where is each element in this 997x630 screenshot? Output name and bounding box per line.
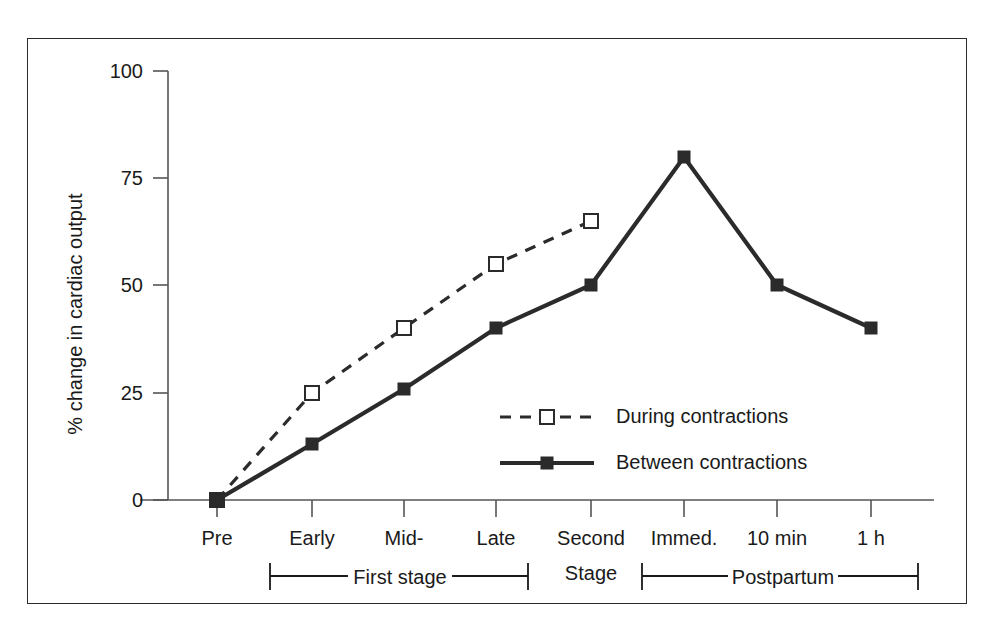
y-tick-label-25: 25 [121,382,143,404]
legend-label-during: During contractions [616,405,788,427]
data-point-during-late [489,257,503,271]
data-point-between-mid [398,383,410,395]
cardiac-output-line-chart: % change in cardiac output 100 75 50 25 … [28,39,968,605]
figure-root: % change in cardiac output 100 75 50 25 … [0,0,997,630]
y-tick-label-50: 50 [121,274,143,296]
legend-entry-during-contractions[interactable]: During contractions [500,405,788,427]
figure-frame: % change in cardiac output 100 75 50 25 … [27,38,967,604]
x-label-late: Late [477,527,516,549]
data-point-between-early [306,438,318,450]
group-label-postpartum: Postpartum [732,566,834,588]
group-bracket-postpartum: Postpartum [642,563,918,590]
series-during-contractions-line [217,221,591,500]
data-point-during-early [305,386,319,400]
data-point-between-immed [678,151,690,163]
y-tick-label-0: 0 [132,489,143,511]
legend-swatch-marker-during [540,410,554,424]
group-bracket-first-stage: First stage [270,563,528,590]
y-axis-title-text: % change in cardiac output [64,193,86,435]
group-label-first-stage: First stage [353,566,446,588]
data-point-during-mid [397,321,411,335]
x-label-mid: Mid- [385,527,424,549]
data-point-between-late [490,322,502,334]
y-axis-ticks: 100 75 50 25 0 [110,60,168,511]
y-tick-label-100: 100 [110,60,143,82]
data-point-during-second [584,214,598,228]
legend-label-between: Between contractions [616,451,807,473]
data-point-between-pre [211,494,223,506]
data-point-between-1h [865,322,877,334]
x-label-immed: Immed. [651,527,718,549]
legend-entry-between-contractions[interactable]: Between contractions [500,451,807,473]
x-label-pre: Pre [201,527,232,549]
x-sublabel-second-stage: Stage [565,562,617,584]
x-label-10min: 10 min [747,527,807,549]
y-tick-label-75: 75 [121,167,143,189]
data-point-between-second [585,279,597,291]
y-axis-title: % change in cardiac output [64,193,86,435]
chart-legend: During contractions Between contractions [500,405,807,473]
x-axis-ticks [217,500,871,517]
legend-swatch-marker-between [541,457,553,469]
x-label-second: Second [557,527,625,549]
x-label-early: Early [289,527,335,549]
x-label-1h: 1 h [857,527,885,549]
data-point-between-10min [771,279,783,291]
